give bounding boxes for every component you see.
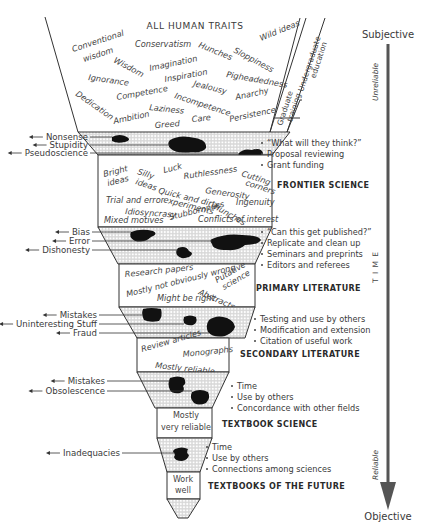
filter-mesh — [98, 227, 272, 264]
filter-2 — [98, 227, 272, 264]
time-label: T I M E — [371, 251, 380, 284]
criterion-item: Seminars and preprints — [267, 249, 363, 259]
trait-word: Hunches — [197, 40, 234, 63]
bullet-icon — [254, 329, 256, 331]
stage-textbooks-future: Workwell — [167, 472, 200, 518]
stage-heading: SECONDARY LITERATURE — [240, 350, 360, 359]
bullet-icon — [231, 385, 233, 387]
trait-word: Anarchy — [233, 85, 269, 102]
reject-arrow-icon — [25, 248, 29, 252]
trait-word: Ambition — [111, 109, 150, 127]
criterion-item: Proposal reviewing — [267, 149, 344, 159]
bullet-icon — [261, 231, 263, 233]
criterion-item: Use by others — [237, 392, 294, 402]
trait-word: Persistence — [228, 104, 276, 124]
all-human-traits-title: ALL HUMAN TRAITS — [147, 21, 244, 31]
rejected-label: Inadequacies — [63, 448, 121, 458]
rejected-blob — [142, 308, 161, 322]
trait-word: Greed — [154, 118, 180, 130]
criterion-item: Modification and extension — [260, 325, 370, 335]
trait-word: Conservatism — [135, 39, 191, 49]
bottom-mesh — [167, 499, 200, 518]
bullet-icon — [261, 253, 263, 255]
criterion-item: Use by others — [212, 453, 269, 463]
stage-word: Mostly — [173, 411, 199, 420]
time-arrow-head — [380, 482, 396, 510]
reject-arrow-icon — [52, 239, 56, 243]
reject-arrow-icon — [51, 379, 55, 383]
bullet-icon — [254, 318, 256, 320]
reject-arrow-icon — [43, 313, 47, 317]
criterion-item: Citation of useful work — [260, 336, 353, 346]
traits-cloud: ConventionalwisdomWisdomConservatismImag… — [71, 17, 302, 130]
criterion-item: Connections among sciences — [212, 464, 331, 474]
rejected-blob — [184, 316, 197, 326]
reject-arrow-icon — [8, 151, 12, 155]
criterion-item: Time — [236, 381, 257, 391]
trait-word: Laziness — [149, 102, 185, 116]
objective-label: Objective — [364, 511, 411, 522]
science-filter-funnel-diagram: ALL HUMAN TRAITS ConventionalwisdomWisdo… — [0, 0, 423, 525]
bullet-icon — [206, 446, 208, 448]
stage-primary-literature: Research papersMostly not obviously wron… — [119, 259, 255, 312]
human-traits-bucket: ALL HUMAN TRAITS ConventionalwisdomWisdo… — [45, 17, 302, 132]
reject-arrow-icon — [56, 331, 60, 335]
reject-arrow-icon — [0, 322, 3, 326]
stage-frontier-science: BrightideasSillyideasLuckRuthlessnessCut… — [98, 155, 279, 228]
trait-word: Ignorance — [88, 72, 130, 88]
stage-word: Trial and error — [106, 195, 165, 205]
stage-textbook-science: Mostlyvery reliable — [157, 408, 212, 438]
subjective-label: Subjective — [362, 29, 414, 40]
time-axis: Subjective Unreliable T I M E Reliable O… — [362, 29, 414, 522]
filter-4 — [137, 372, 229, 408]
reject-arrow-icon — [46, 451, 50, 455]
stage-heading: TEXTBOOK SCIENCE — [222, 420, 318, 429]
bullet-icon — [261, 164, 263, 166]
rejected-blob — [173, 448, 189, 462]
reject-arrow-icon — [28, 389, 32, 393]
trait-word: Dedication — [74, 88, 116, 121]
rejected-blob — [191, 390, 209, 405]
bullet-icon — [261, 142, 263, 144]
rejected-label: Fraud — [73, 328, 97, 338]
criterion-item: Replicate and clean up — [267, 238, 361, 248]
stage-heading: TEXTBOOKS OF THE FUTURE — [208, 482, 345, 491]
bullet-icon — [206, 468, 208, 470]
stage-heading: FRONTIER SCIENCE — [277, 181, 369, 190]
bullet-icon — [206, 457, 208, 459]
rejected-label: Obsolescence — [45, 386, 105, 396]
stage-word: very reliable — [161, 423, 211, 432]
trait-word: Jealousy — [191, 78, 229, 96]
bullet-icon — [261, 153, 263, 155]
criterion-item: Editors and referees — [267, 260, 350, 270]
stage-word: Might be right — [157, 293, 215, 303]
bullet-icon — [254, 340, 256, 342]
criterion-item: Time — [211, 442, 232, 452]
criterion-item: “Can this get published?” — [267, 227, 371, 237]
stage-word: Ingenuity — [236, 197, 275, 207]
criterion-item: Testing and use by others — [259, 314, 365, 324]
stage-word: well — [175, 486, 191, 495]
unreliable-label: Unreliable — [371, 63, 380, 102]
criterion-item: “What will they think?” — [267, 138, 362, 148]
reliable-label: Reliable — [371, 450, 380, 480]
rejected-label: Pseudoscience — [25, 148, 88, 158]
reject-arrow-icon — [55, 230, 59, 234]
rejected-label: Mistakes — [68, 376, 106, 386]
stage-word: Work — [173, 475, 194, 484]
criterion-item: Concordance with other fields — [237, 403, 360, 413]
reject-arrow-icon — [33, 143, 37, 147]
stage-heading: PRIMARY LITERATURE — [256, 284, 361, 293]
bullet-icon — [261, 264, 263, 266]
bullet-icon — [231, 396, 233, 398]
stage-word: Mixed motives — [104, 215, 164, 225]
bullet-icon — [261, 242, 263, 244]
trait-word: Care — [191, 112, 211, 124]
reject-arrow-icon — [29, 135, 33, 139]
criterion-item: Grant funding — [267, 160, 324, 170]
rejected-label: Dishonesty — [42, 245, 90, 255]
filter-5 — [157, 438, 212, 472]
bullet-icon — [231, 407, 233, 409]
stage-word: Conflicts of interest — [198, 214, 279, 224]
trait-word: Wild ideas — [258, 17, 302, 42]
